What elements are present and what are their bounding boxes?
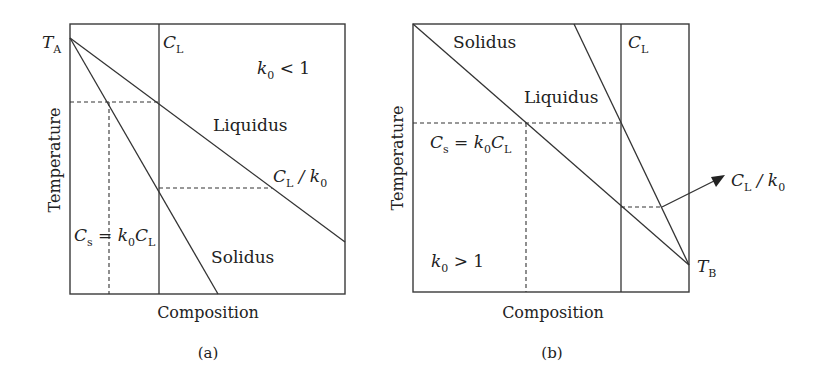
panel-a-x-axis-label: Composition	[157, 303, 259, 322]
panel-b-liquidus-label: Liquidus	[524, 87, 599, 107]
phase-diagram-figure: TA CL k0 < 1 Liquidus CL / k0 Cs = k0CL …	[0, 0, 823, 384]
panel-a-cs-equation: Cs = k0CL	[74, 225, 156, 249]
panel-b-x-axis-label: Composition	[502, 303, 604, 322]
panel-b: Solidus CL Liquidus Cs = k0CL CL / k0 k0…	[388, 24, 785, 362]
panel-a-cl-over-k0-label: CL / k0	[273, 166, 327, 190]
panel-a-solidus-line	[70, 38, 218, 294]
panel-b-cl-label: CL	[628, 32, 649, 56]
panel-a-ta-label: TA	[42, 32, 62, 56]
panel-b-cl-over-k0-label: CL / k0	[731, 170, 785, 194]
panel-a-liquidus-label: Liquidus	[213, 115, 288, 135]
panel-b-liquidus-line	[574, 24, 689, 265]
panel-a: TA CL k0 < 1 Liquidus CL / k0 Cs = k0CL …	[42, 24, 345, 362]
arrow-head-icon	[711, 175, 725, 187]
panel-a-cl-label: CL	[163, 32, 184, 56]
panel-b-solidus-label: Solidus	[453, 32, 516, 52]
panel-a-solidus-label: Solidus	[211, 247, 274, 267]
panel-a-caption: (a)	[198, 344, 219, 362]
panel-b-tb-label: TB	[697, 256, 716, 280]
panel-a-condition: k0 < 1	[257, 58, 310, 82]
panel-b-caption: (b)	[541, 344, 562, 362]
panel-b-condition: k0 > 1	[431, 251, 484, 275]
panel-b-cs-equation: Cs = k0CL	[430, 132, 512, 156]
panel-b-y-axis-label: Temperature	[388, 106, 407, 211]
panel-a-y-axis-label: Temperature	[45, 108, 64, 213]
